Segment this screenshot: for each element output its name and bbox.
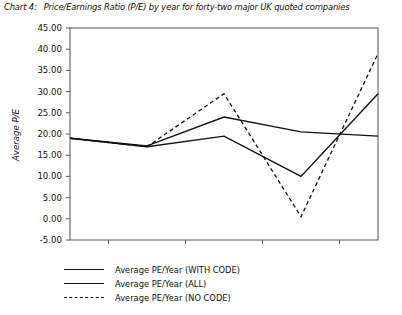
- y-tick-label: 40.00: [37, 44, 62, 54]
- y-tick-label: 10.00: [37, 171, 62, 181]
- y-tick-label: 20.00: [37, 129, 62, 139]
- legend-swatch-with-code: [60, 265, 108, 275]
- y-axis-title: Average P/E: [11, 95, 21, 175]
- y-tick-label: 15.00: [37, 150, 62, 160]
- y-tick-label: 25.00: [37, 108, 62, 118]
- legend-label-with-code: Average PE/Year (WITH CODE): [115, 265, 240, 275]
- legend-label-no-code: Average PE/Year (NO CODE): [115, 293, 231, 303]
- y-tick-label: 30.00: [37, 87, 62, 97]
- chart-caption-label: Chart 4:: [4, 2, 37, 12]
- plot-area: Average P/E 45.0040.0035.0030.0025.0020.…: [0, 18, 402, 246]
- y-tick-label: 45.00: [37, 23, 62, 33]
- y-tick-label: 35.00: [37, 65, 62, 75]
- series-line: [70, 53, 378, 216]
- legend-item: Average PE/Year (NO CODE): [60, 291, 360, 305]
- legend-item: Average PE/Year (ALL): [60, 277, 360, 291]
- y-tick-label: -5.00: [40, 235, 62, 245]
- chart-figure: Chart 4:Price/Earnings Ratio (P/E) by ye…: [0, 0, 402, 315]
- legend-swatch-no-code: [60, 293, 108, 303]
- legend-swatch-all: [60, 279, 108, 289]
- chart-legend: Average PE/Year (WITH CODE) Average PE/Y…: [60, 263, 360, 305]
- series-line: [70, 117, 378, 146]
- line-chart: 45.0040.0035.0030.0025.0020.0015.0010.00…: [0, 18, 402, 246]
- series-line: [70, 94, 378, 177]
- chart-caption-text: Price/Earnings Ratio (P/E) by year for f…: [44, 2, 350, 12]
- legend-item: Average PE/Year (WITH CODE): [60, 263, 360, 277]
- y-tick-label: 0.00: [43, 214, 62, 224]
- y-tick-label: 5.00: [43, 193, 62, 203]
- chart-caption: Chart 4:Price/Earnings Ratio (P/E) by ye…: [4, 2, 400, 12]
- legend-label-all: Average PE/Year (ALL): [115, 279, 206, 289]
